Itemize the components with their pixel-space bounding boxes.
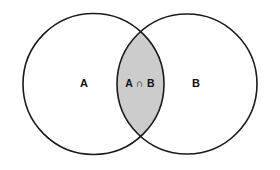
set-b-label: B [192,77,200,89]
venn-diagram-svg: A A ∩ B B [0,0,280,170]
intersection-label: A ∩ B [125,77,155,89]
set-a-label: A [80,77,88,89]
venn-diagram-canvas: A A ∩ B B [0,0,280,170]
